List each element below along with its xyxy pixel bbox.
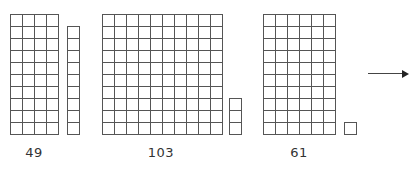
unit-cell xyxy=(288,123,300,135)
unit-cell xyxy=(47,99,59,111)
unit-cell xyxy=(35,123,47,135)
unit-cell xyxy=(47,51,59,63)
unit-cell xyxy=(276,15,288,27)
unit-cell xyxy=(139,15,151,27)
unit-cell xyxy=(230,123,242,135)
label-49: 49 xyxy=(4,145,64,160)
unit-cell xyxy=(35,15,47,27)
unit-cell xyxy=(264,63,276,75)
unit-cell xyxy=(264,111,276,123)
unit-cell xyxy=(23,15,35,27)
unit-cell xyxy=(139,111,151,123)
unit-cell xyxy=(68,51,80,63)
unit-cell xyxy=(11,87,23,99)
unit-cell xyxy=(211,99,223,111)
unit-cell xyxy=(199,111,211,123)
unit-cell xyxy=(35,99,47,111)
unit-cell xyxy=(103,51,115,63)
unit-cell xyxy=(288,87,300,99)
unit-cell xyxy=(103,63,115,75)
unit-cell xyxy=(175,27,187,39)
unit-cell xyxy=(175,75,187,87)
ones-column-61 xyxy=(344,122,357,135)
tens-block-49 xyxy=(10,14,59,135)
unit-cell xyxy=(276,87,288,99)
unit-cell xyxy=(211,87,223,99)
unit-cell xyxy=(11,39,23,51)
unit-cell xyxy=(163,39,175,51)
unit-cell xyxy=(11,111,23,123)
unit-cell xyxy=(312,123,324,135)
unit-cell xyxy=(312,15,324,27)
unit-cell xyxy=(11,27,23,39)
unit-cell xyxy=(127,87,139,99)
unit-cell xyxy=(300,15,312,27)
unit-cell xyxy=(230,99,242,111)
unit-cell xyxy=(312,27,324,39)
unit-cell xyxy=(103,75,115,87)
unit-cell xyxy=(324,15,336,27)
unit-cell xyxy=(324,87,336,99)
unit-cell xyxy=(324,123,336,135)
unit-cell xyxy=(115,15,127,27)
unit-cell xyxy=(139,51,151,63)
unit-cell xyxy=(300,63,312,75)
unit-cell xyxy=(211,111,223,123)
unit-cell xyxy=(151,15,163,27)
unit-cell xyxy=(199,63,211,75)
unit-cell xyxy=(139,87,151,99)
unit-cell xyxy=(288,99,300,111)
unit-cell xyxy=(211,63,223,75)
unit-cell xyxy=(47,123,59,135)
unit-cell xyxy=(175,123,187,135)
unit-cell xyxy=(187,63,199,75)
unit-cell xyxy=(345,123,357,135)
unit-cell xyxy=(139,75,151,87)
unit-cell xyxy=(115,75,127,87)
unit-cell xyxy=(324,39,336,51)
unit-cell xyxy=(163,99,175,111)
unit-cell xyxy=(264,123,276,135)
unit-cell xyxy=(211,15,223,27)
unit-cell xyxy=(211,27,223,39)
unit-cell xyxy=(151,87,163,99)
unit-cell xyxy=(175,51,187,63)
unit-cell xyxy=(23,63,35,75)
unit-cell xyxy=(115,63,127,75)
unit-cell xyxy=(163,63,175,75)
unit-cell xyxy=(35,87,47,99)
unit-cell xyxy=(175,99,187,111)
unit-cell xyxy=(324,27,336,39)
unit-cell xyxy=(211,123,223,135)
unit-cell xyxy=(324,75,336,87)
unit-cell xyxy=(23,111,35,123)
unit-cell xyxy=(264,15,276,27)
unit-cell xyxy=(35,39,47,51)
unit-cell xyxy=(211,51,223,63)
unit-cell xyxy=(115,111,127,123)
unit-cell xyxy=(68,27,80,39)
unit-cell xyxy=(11,99,23,111)
unit-cell xyxy=(199,27,211,39)
unit-cell xyxy=(264,39,276,51)
unit-cell xyxy=(199,15,211,27)
unit-cell xyxy=(139,123,151,135)
unit-cell xyxy=(68,111,80,123)
unit-cell xyxy=(68,99,80,111)
unit-cell xyxy=(11,51,23,63)
unit-cell xyxy=(11,15,23,27)
unit-cell xyxy=(103,27,115,39)
unit-cell xyxy=(324,51,336,63)
unit-cell xyxy=(288,75,300,87)
unit-cell xyxy=(151,123,163,135)
arrow-right-icon xyxy=(368,73,404,74)
unit-cell xyxy=(264,27,276,39)
unit-cell xyxy=(127,123,139,135)
unit-cell xyxy=(68,39,80,51)
unit-cell xyxy=(103,87,115,99)
unit-cell xyxy=(47,111,59,123)
unit-cell xyxy=(127,63,139,75)
unit-cell xyxy=(23,87,35,99)
unit-cell xyxy=(35,75,47,87)
unit-cell xyxy=(115,39,127,51)
